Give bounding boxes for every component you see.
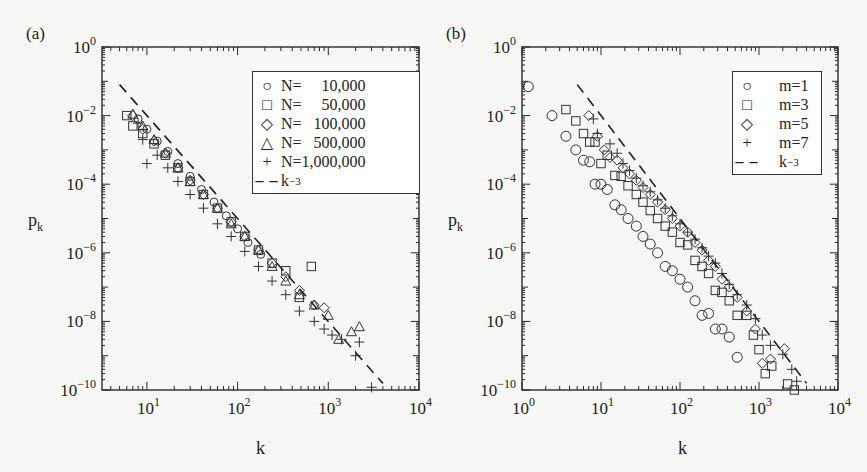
marker-icon: + xyxy=(733,134,761,152)
marker-icon: ◇ xyxy=(253,114,281,133)
circle-marker xyxy=(690,296,700,306)
legend-entry: ◇m=5 xyxy=(733,114,821,133)
y-tick-label: 10−2 xyxy=(486,103,516,126)
triangle-marker xyxy=(354,322,364,331)
square-marker xyxy=(579,129,587,137)
square-marker xyxy=(597,159,605,167)
triangle-marker xyxy=(160,148,170,157)
y-axis-label-b: pk xyxy=(448,210,463,235)
circle-marker xyxy=(590,179,600,189)
x-axis-label-a: k xyxy=(256,438,265,459)
legend-entry: ○N= 10,000 xyxy=(253,76,419,95)
diamond-marker xyxy=(779,344,789,354)
legend-entry: – –k−3 xyxy=(253,171,419,190)
circle-marker xyxy=(571,145,581,155)
y-tick-label: 10−4 xyxy=(486,171,516,194)
legend-b: ○m=1□m=3◇m=5+m=7– –k−3 xyxy=(732,71,822,175)
panel-b: (b) 10010110210310410010−210−410−610−810… xyxy=(434,0,867,472)
square-marker xyxy=(646,206,654,214)
circle-marker xyxy=(547,111,557,121)
circle-marker xyxy=(585,157,595,167)
legend-label: m=5 xyxy=(761,115,808,133)
circle-marker xyxy=(602,185,612,195)
circle-marker xyxy=(683,282,693,292)
legend-exponent: −3 xyxy=(289,175,301,187)
triangle-marker xyxy=(294,290,304,299)
legend-entry: □m=3 xyxy=(733,95,821,114)
x-tick-label: 104 xyxy=(409,395,432,418)
circle-marker xyxy=(578,155,588,165)
diamond-marker xyxy=(750,324,760,334)
circle-marker xyxy=(631,221,641,231)
circle-marker xyxy=(724,332,734,342)
square-marker xyxy=(624,182,632,190)
square-marker xyxy=(733,311,741,319)
square-marker xyxy=(586,138,594,146)
legend-entry: +m=7 xyxy=(733,133,821,152)
legend-entry: ○m=1 xyxy=(733,76,821,95)
x-tick-label: 104 xyxy=(828,395,851,418)
circle-marker xyxy=(653,248,663,258)
square-marker xyxy=(755,345,763,353)
y-tick-label: 10−10 xyxy=(480,377,516,400)
circle-marker xyxy=(667,266,677,276)
x-tick-label: 101 xyxy=(137,395,160,418)
dashed-line-icon: – – xyxy=(253,172,281,190)
legend-entry: +N=1,000,000 xyxy=(253,152,419,171)
marker-icon: ◇ xyxy=(733,114,761,133)
circle-marker xyxy=(660,261,670,271)
y-axis-label-a: pk xyxy=(28,210,43,235)
legend-label: N= 10,000 xyxy=(281,77,366,95)
marker-icon: ○ xyxy=(253,77,281,95)
legend-entry: – –k−3 xyxy=(733,152,821,171)
triangle-marker xyxy=(267,261,277,270)
y-tick-label: 10−10 xyxy=(60,377,96,400)
y-tick-label: 100 xyxy=(73,34,96,57)
circle-marker xyxy=(732,352,742,362)
diamond-marker xyxy=(267,258,277,268)
legend-label: m=3 xyxy=(761,96,808,114)
y-tick-label: 10−4 xyxy=(66,171,96,194)
circle-marker xyxy=(596,179,606,189)
triangle-marker xyxy=(253,245,263,254)
y-tick-label: 10−6 xyxy=(486,240,516,263)
circle-marker xyxy=(704,308,714,318)
triangle-marker xyxy=(198,190,208,199)
legend-label: m=7 xyxy=(761,134,808,152)
circle-marker xyxy=(616,205,626,215)
legend-exponent: −3 xyxy=(787,156,799,168)
square-marker xyxy=(307,262,315,270)
x-tick-label: 100 xyxy=(512,395,535,418)
x-tick-label: 101 xyxy=(591,395,614,418)
circle-marker xyxy=(717,324,727,334)
square-marker xyxy=(562,105,570,113)
circle-marker xyxy=(645,239,655,249)
legend-entry: ◇N= 100,000 xyxy=(253,114,419,133)
square-marker xyxy=(743,311,751,319)
circle-marker xyxy=(638,231,648,241)
triangle-marker xyxy=(346,327,356,336)
legend-label: m=1 xyxy=(761,77,808,95)
y-tick-label: 10−2 xyxy=(66,103,96,126)
y-tick-label: 10−6 xyxy=(66,240,96,263)
circle-marker xyxy=(244,238,252,246)
marker-icon: △ xyxy=(253,133,281,152)
marker-icon: ○ xyxy=(733,77,761,95)
y-tick-label: 100 xyxy=(493,34,516,57)
marker-icon: □ xyxy=(733,96,761,114)
legend-label: k xyxy=(281,172,289,190)
marker-icon: + xyxy=(253,153,281,171)
legend-entry: △N= 500,000 xyxy=(253,133,419,152)
circle-marker xyxy=(675,274,685,284)
y-tick-label: 10−8 xyxy=(66,308,96,331)
legend-label: N= 100,000 xyxy=(281,115,366,133)
x-axis-label-b: k xyxy=(678,438,687,459)
circle-marker xyxy=(610,200,620,210)
legend-entry: □N= 50,000 xyxy=(253,95,419,114)
square-marker xyxy=(653,214,661,222)
triangle-marker xyxy=(240,231,250,240)
diamond-marker xyxy=(599,145,609,155)
legend-label: N= 500,000 xyxy=(281,134,366,152)
legend-label: N= 50,000 xyxy=(281,96,366,114)
square-marker xyxy=(572,117,580,125)
